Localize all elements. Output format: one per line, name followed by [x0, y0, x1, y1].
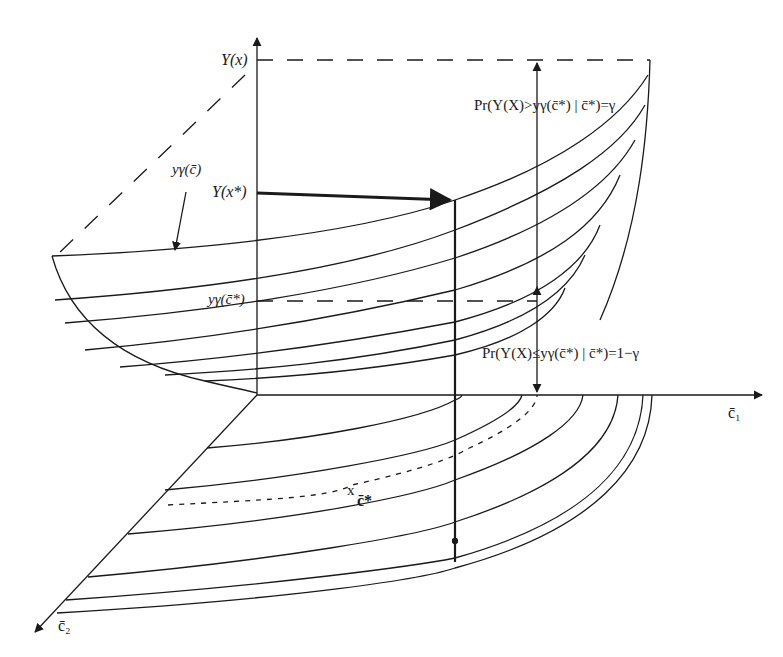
y-axis-label: Y(x)	[221, 52, 248, 68]
quantile-surface-diagram	[0, 0, 783, 657]
surface-curve-4	[85, 175, 620, 350]
surface-curve-2	[55, 105, 645, 300]
c-plane-contour-1	[207, 395, 462, 448]
y-gamma-c-star-label: yγ(c̄*)	[208, 292, 245, 307]
c2-axis	[35, 395, 257, 632]
surface-curve-3	[65, 140, 635, 323]
c-star-marker: x	[347, 483, 355, 498]
pr-lower-label: Pr(Y(X)≤yγ(c̄*) | c̄*)=1−γ	[482, 346, 639, 361]
c-plane-contour-6	[57, 395, 652, 613]
projection-foot-point	[453, 539, 458, 544]
c-star-point-label: c̄*	[357, 493, 372, 509]
c2-axis-label: c̄₂	[58, 618, 71, 634]
left-dashed-diagonal	[57, 75, 245, 255]
upper-surface-left-rim	[52, 256, 257, 393]
y-gamma-c-pointer	[175, 192, 186, 250]
y-x-star-arrow	[257, 193, 450, 200]
c1-axis-label: c̄₁	[728, 405, 741, 421]
y-x-star-label: Y(x*)	[212, 184, 247, 200]
y-gamma-c-label: yγ(c̄)	[172, 162, 201, 177]
pr-upper-label: Pr(Y(X)>yγ(c̄*) | c̄*)=γ	[474, 98, 615, 113]
